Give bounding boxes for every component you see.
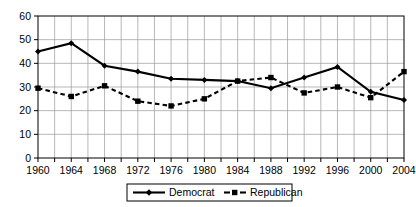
y-tick-label: 50 bbox=[19, 33, 31, 45]
x-tick-label: 1992 bbox=[293, 164, 317, 176]
x-tick-label: 1996 bbox=[326, 164, 350, 176]
x-tick-label: 1988 bbox=[259, 164, 283, 176]
y-tick-label: 30 bbox=[19, 81, 31, 93]
legend-republican-square-icon bbox=[232, 190, 237, 195]
y-tick-label: 60 bbox=[19, 10, 31, 22]
y-tick-label: 10 bbox=[19, 128, 31, 140]
x-tick-label: 1972 bbox=[126, 164, 150, 176]
data-point-republican bbox=[401, 69, 406, 74]
data-point-republican bbox=[335, 84, 340, 89]
data-point-republican bbox=[268, 75, 273, 80]
x-tick-label: 1960 bbox=[26, 164, 50, 176]
data-point-republican bbox=[202, 96, 207, 101]
legend-democrat-label: Democrat bbox=[169, 186, 215, 198]
data-point-republican bbox=[135, 99, 140, 104]
x-tick-label: 1984 bbox=[226, 164, 250, 176]
legend-republican-label: Republican bbox=[250, 186, 303, 198]
x-tick-label: 2000 bbox=[359, 164, 383, 176]
y-tick-label: 20 bbox=[19, 104, 31, 116]
data-point-republican bbox=[301, 90, 306, 95]
data-point-republican bbox=[69, 94, 74, 99]
chart-container: 0102030405060 19601964196819721976198019… bbox=[0, 0, 416, 207]
x-tick-label: 2004 bbox=[392, 164, 416, 176]
y-tick-label: 0 bbox=[25, 152, 31, 164]
y-tick-label: 40 bbox=[19, 57, 31, 69]
x-tick-label: 1980 bbox=[193, 164, 217, 176]
x-tick-label: 1964 bbox=[60, 164, 84, 176]
data-point-republican bbox=[368, 95, 373, 100]
x-tick-label: 1968 bbox=[93, 164, 117, 176]
data-point-republican bbox=[35, 85, 40, 90]
chart-legend: Democrat Republican bbox=[127, 184, 303, 201]
x-tick-label: 1976 bbox=[159, 164, 183, 176]
line-chart: 0102030405060 19601964196819721976198019… bbox=[0, 0, 416, 207]
data-point-republican bbox=[168, 103, 173, 108]
data-point-republican bbox=[102, 83, 107, 88]
